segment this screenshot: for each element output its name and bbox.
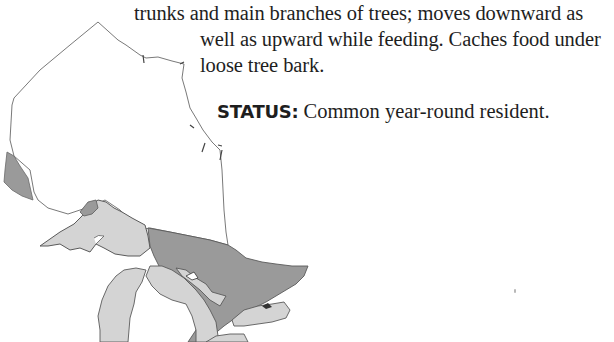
range-map	[0, 0, 320, 342]
description-line-2: well as upward while feeding. Caches foo…	[200, 27, 601, 51]
description-line-3: loose tree bark.	[200, 53, 324, 77]
status-value: Common year-round resident.	[303, 100, 549, 122]
scan-speck	[514, 289, 516, 293]
lake-michigan	[98, 268, 146, 342]
status-label: STATUS:	[217, 101, 298, 122]
description-line-1: trunks and main branches of trees; moves…	[134, 1, 583, 25]
status-line: STATUS: Common year-round resident.	[217, 99, 550, 124]
